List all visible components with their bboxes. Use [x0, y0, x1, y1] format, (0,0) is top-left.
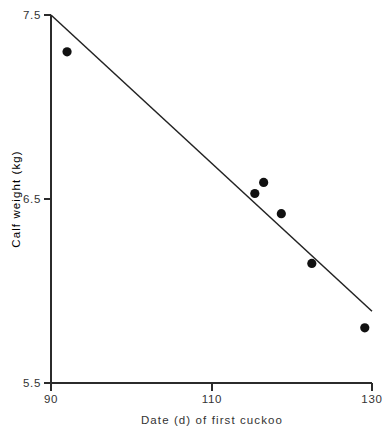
y-tick-label-bottom: 5.5: [23, 377, 41, 389]
data-point: [250, 189, 259, 198]
data-point: [259, 178, 268, 187]
y-tick-label-mid: 6.5: [23, 193, 41, 205]
x-tick-label-90: 90: [44, 393, 58, 405]
y-axis-title: Calf weight (kg): [10, 150, 22, 248]
data-point: [360, 323, 369, 332]
y-tick-label-top: 7.5: [23, 9, 41, 21]
data-point: [62, 47, 71, 56]
data-point: [307, 259, 316, 268]
x-tick-label-130: 130: [361, 393, 382, 405]
x-axis-title: Date (d) of first cuckoo: [141, 414, 283, 426]
scatter-plot: 7.5 6.5 5.5 90 110 130 Date (d) of first…: [0, 0, 391, 431]
x-tick-label-110: 110: [202, 393, 222, 405]
data-point: [277, 209, 286, 218]
chart-figure: 7.5 6.5 5.5 90 110 130 Date (d) of first…: [0, 0, 391, 431]
plot-background: [0, 0, 391, 431]
